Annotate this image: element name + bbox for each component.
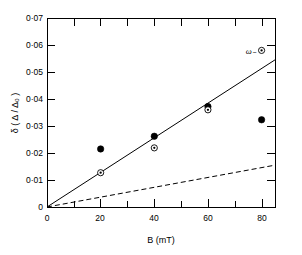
data-point <box>98 170 104 176</box>
lower-dashed-fit-line <box>47 165 275 207</box>
x-tick-label: 80 <box>257 213 267 223</box>
filled-circle-marker <box>258 117 264 123</box>
y-tick-label: 0·01 <box>26 175 43 185</box>
omega-minus-annotation: ω₋ <box>246 46 257 56</box>
y-axis-ticks <box>47 18 55 207</box>
figure-container: 0 0·01 0·02 0·03 0·04 0·05 0·06 0·07 0 2… <box>0 0 302 255</box>
x-tick-label: 20 <box>95 213 105 223</box>
y-axis-title: δ ( Δ / Δ₀ ) <box>10 93 20 133</box>
x-tick-label: 60 <box>203 213 213 223</box>
x-axis-ticks <box>47 199 262 207</box>
axes-frame <box>47 18 275 207</box>
data-point <box>205 107 211 113</box>
y-tick-label: 0·05 <box>26 67 43 77</box>
circle-dot-marker-core <box>153 147 155 149</box>
x-tick-label: 40 <box>149 213 159 223</box>
data-point <box>258 47 264 53</box>
y-tick-label: 0·04 <box>26 94 43 104</box>
data-point <box>258 117 264 123</box>
data-point <box>97 146 103 152</box>
data-markers <box>97 47 264 176</box>
data-point <box>151 145 157 151</box>
y-tick-label: 0·02 <box>26 148 43 158</box>
filled-circle-marker <box>97 146 103 152</box>
circle-dot-marker-core <box>207 109 209 111</box>
y-tick-label: 0·06 <box>26 40 43 50</box>
circle-dot-marker-core <box>260 49 262 51</box>
data-point <box>151 133 157 139</box>
x-tick-labels: 0 20 40 60 80 <box>45 213 267 223</box>
y-tick-labels: 0 0·01 0·02 0·03 0·04 0·05 0·06 0·07 <box>26 13 43 212</box>
x-axis-ticks-top <box>74 18 262 26</box>
y-tick-label: 0 <box>38 202 43 212</box>
scatter-plot: 0 0·01 0·02 0·03 0·04 0·05 0·06 0·07 0 2… <box>0 0 302 255</box>
y-tick-label: 0·07 <box>26 13 43 23</box>
fit-lines <box>47 60 275 207</box>
filled-circle-marker <box>151 133 157 139</box>
x-tick-label: 0 <box>45 213 50 223</box>
y-tick-label: 0·03 <box>26 121 43 131</box>
omega-minus-fit-line <box>47 60 275 207</box>
x-axis-title: B (mT) <box>147 235 175 245</box>
circle-dot-marker-core <box>99 172 101 174</box>
plot-frame <box>47 18 275 207</box>
y-axis-ticks-right <box>267 45 275 207</box>
